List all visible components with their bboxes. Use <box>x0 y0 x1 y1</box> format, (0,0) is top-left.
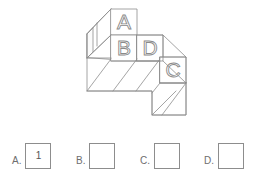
answer-label-a: A. <box>12 146 21 166</box>
answer-label-c: C. <box>140 146 150 166</box>
figure-area: A B D C <box>0 0 277 125</box>
answer-choice-d[interactable]: D. <box>204 132 244 180</box>
face-letter-B: B <box>117 36 131 59</box>
stacked-blocks-figure: A B D C <box>0 0 277 125</box>
answer-label-b: B. <box>76 146 85 166</box>
answer-box-b[interactable] <box>89 143 115 169</box>
answer-choice-b[interactable]: B. <box>76 132 115 180</box>
face-letter-A: A <box>117 10 131 33</box>
answer-box-c[interactable] <box>154 143 180 169</box>
answer-choice-c[interactable]: C. <box>140 132 180 180</box>
answer-choices-row: A. 1 B. C. D. <box>0 132 277 180</box>
answer-value-a: 1 <box>36 151 42 161</box>
answer-box-a[interactable]: 1 <box>25 143 51 169</box>
answer-label-d: D. <box>204 146 214 166</box>
answer-choice-a[interactable]: A. 1 <box>12 132 51 180</box>
page-root: A B D C A. 1 B. C. D. <box>0 0 277 180</box>
face-letter-D: D <box>142 36 157 59</box>
face-letter-C: C <box>165 58 180 81</box>
edge-diagonal-d-top <box>163 35 186 57</box>
answer-box-d[interactable] <box>218 143 244 169</box>
